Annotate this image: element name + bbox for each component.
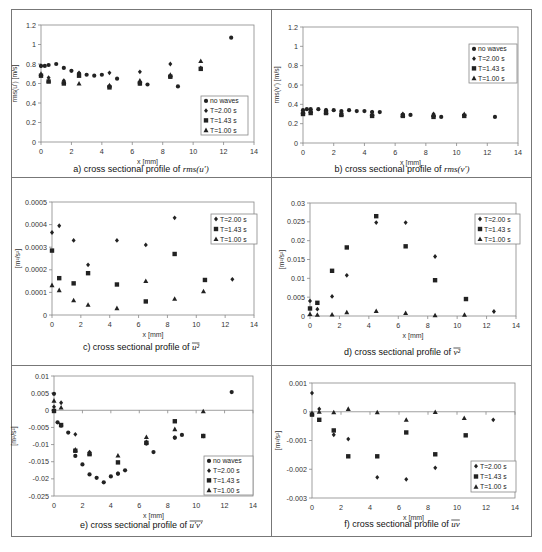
data-point <box>433 465 437 470</box>
data-point <box>433 452 437 456</box>
y-tick-label: 0 <box>303 407 307 416</box>
x-tick-label: 6 <box>130 147 134 156</box>
x-tick-label: 2 <box>332 148 336 157</box>
x-tick-label: 12 <box>220 147 228 156</box>
data-point <box>404 430 408 434</box>
data-point <box>308 299 312 304</box>
data-point <box>317 418 321 422</box>
y-tick-label: 0 <box>294 139 298 148</box>
x-tick-label: 14 <box>249 501 257 510</box>
data-point <box>308 306 312 310</box>
data-point <box>439 115 443 119</box>
data-point <box>345 273 349 278</box>
data-point <box>168 62 172 67</box>
legend-entry: T=1.00 s <box>213 487 240 494</box>
data-point <box>123 468 127 472</box>
data-point <box>375 454 379 458</box>
legend-marker <box>478 227 482 231</box>
data-point <box>330 312 335 317</box>
data-point <box>464 297 468 301</box>
data-point <box>80 462 84 466</box>
x-tick-label: 4 <box>108 320 112 329</box>
legend-entry: T=1.00 s <box>220 236 247 243</box>
y-tick-label: 0.2 <box>26 118 36 127</box>
data-point <box>355 109 359 113</box>
data-point <box>71 298 76 303</box>
data-point <box>144 441 148 445</box>
data-point <box>57 223 61 228</box>
series-no-waves <box>301 107 497 119</box>
legend-entry: T=1.00 s <box>210 127 237 134</box>
panel-caption: c) cross sectional profile of u² <box>83 342 200 352</box>
data-point <box>144 243 148 248</box>
data-point <box>50 248 54 252</box>
data-point <box>107 70 111 75</box>
legend-marker <box>207 478 211 482</box>
data-point <box>362 109 366 113</box>
data-point <box>115 453 120 458</box>
x-tick-label: 4 <box>368 503 372 512</box>
data-point <box>346 437 350 442</box>
x-tick-label: 14 <box>250 147 258 156</box>
y-tick-label: 0 <box>45 406 49 415</box>
panel-caption: d) cross sectional profile of v² <box>344 347 461 357</box>
figure-grid: 0246810121400.20.40.60.811.2x [mm]rms(u'… <box>0 0 542 552</box>
data-point <box>464 433 468 437</box>
x-tick-label: 14 <box>512 321 520 330</box>
data-point <box>315 301 319 305</box>
y-tick-label: 0.4 <box>288 100 298 109</box>
y-axis-label: [m²/s²] <box>14 249 22 268</box>
legend-entry: no waves <box>210 97 239 104</box>
x-tick-label: 6 <box>137 320 141 329</box>
data-point <box>47 63 51 67</box>
y-axis-label: [m²/s²] <box>274 431 282 450</box>
data-point <box>50 230 54 235</box>
series-t-2-00-s <box>50 215 234 281</box>
x-tick-label: 12 <box>221 320 229 329</box>
data-point <box>69 69 73 73</box>
x-tick-label: 12 <box>482 503 490 512</box>
data-point <box>57 288 62 293</box>
legend-marker <box>207 459 211 463</box>
y-tick-label: 0.2 <box>288 119 298 128</box>
x-tick-label: 14 <box>514 148 522 157</box>
x-tick-label: 10 <box>453 148 461 157</box>
x-tick-label: 4 <box>100 147 104 156</box>
data-point <box>102 480 106 484</box>
data-point <box>230 277 234 282</box>
legend-entry: T=1.43 s <box>220 226 247 233</box>
legend-marker <box>214 227 218 231</box>
data-point <box>144 434 149 439</box>
x-tick-label: 8 <box>161 147 165 156</box>
legend: T=2.00 sT=1.43 sT=1.00 s <box>475 214 520 244</box>
legend-entry: T=1.43 s <box>484 226 511 233</box>
panel-caption: f) cross sectional profile of uv <box>344 519 460 529</box>
x-tick-label: 2 <box>337 321 341 330</box>
legend-entry: T=1.00 s <box>484 236 511 243</box>
data-point <box>201 434 205 438</box>
legend-entry: T=1.00 s <box>480 483 507 490</box>
series-t-1-43-s <box>50 248 207 303</box>
y-tick-label: 1 <box>294 42 298 51</box>
legend-entry: T=1.43 s <box>213 477 240 484</box>
legend-entry: T=2.00 s <box>484 216 511 223</box>
y-tick-label: -0.001 <box>287 436 307 445</box>
legend-marker <box>204 99 208 103</box>
data-point <box>408 113 412 117</box>
y-tick-label: 0.0002 <box>25 265 47 274</box>
data-point <box>229 36 233 40</box>
y-axis-label: rms(u') [m/s] <box>11 65 19 103</box>
data-point <box>59 423 63 427</box>
y-axis-label: rms(v') [m/s] <box>273 66 281 103</box>
data-point <box>109 474 113 478</box>
y-tick-label: 0.005 <box>287 293 305 302</box>
data-point <box>305 107 309 111</box>
data-point <box>315 307 319 312</box>
x-tick-label: 10 <box>192 320 200 329</box>
data-point <box>107 83 112 88</box>
x-axis-label: x [mm] <box>403 332 424 340</box>
data-point <box>198 58 203 63</box>
legend: no wavesT=2.00 sT=1.43 sT=1.00 s <box>201 96 248 135</box>
y-tick-label: 0.001 <box>289 379 307 388</box>
legend-entry: T=2.00 s <box>480 463 507 470</box>
